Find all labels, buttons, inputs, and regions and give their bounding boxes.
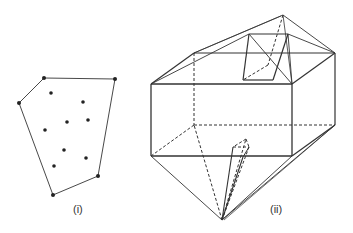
point [96,174,100,178]
edge [222,147,233,220]
hidden-edge [243,65,268,80]
edge [151,53,194,84]
edge [151,34,249,84]
point [62,148,66,152]
diagram-canvas [0,0,353,233]
hidden-edge [246,139,249,147]
hull-edge [53,176,98,195]
point [42,76,46,80]
edge [288,34,335,53]
point [86,118,90,122]
point [51,193,55,197]
point [81,100,85,104]
point [84,156,88,160]
edge [292,125,335,156]
point [49,91,53,95]
figure-i-label: (i) [73,203,83,215]
convex-hull-figure [17,76,117,197]
point [113,77,117,81]
hidden-edge [151,125,194,156]
point [43,128,47,132]
figure-ii-label: (ii) [270,203,282,215]
point [65,120,69,124]
edge [292,53,335,84]
hidden-edge [194,125,222,220]
hull-edge [19,103,53,195]
polyhedron-figure [151,15,335,220]
edge [243,34,249,80]
edge [283,15,292,84]
edge [151,156,222,220]
hull-edge [44,78,115,79]
hull-edge [98,79,115,176]
hidden-edge [222,139,246,220]
point [52,164,56,168]
point [17,101,21,105]
edge [283,15,335,53]
hull-edge [19,78,44,103]
